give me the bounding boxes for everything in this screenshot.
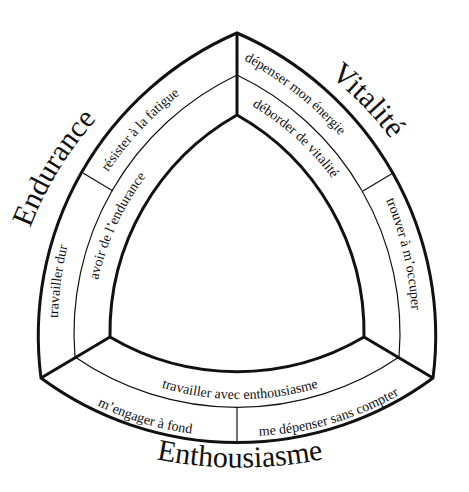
item-trouver-a-m-occuper: trouver à m’occuper <box>383 195 423 310</box>
section-title-enthousiasme: Enthousiasme <box>155 433 325 474</box>
divider-vitalite <box>363 173 393 191</box>
diagram: Endurance résister à la fatigue travaill… <box>0 0 469 492</box>
divider-endurance <box>83 173 113 191</box>
middle-ring <box>74 75 400 407</box>
item-travailler-avec-enthousiasme: travailler avec enthousiasme <box>161 376 320 402</box>
